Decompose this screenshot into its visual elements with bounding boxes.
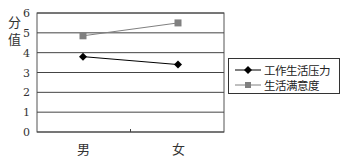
- gridlines: [37, 13, 224, 132]
- legend-item-work-life-pressure: 工作生活压力: [233, 62, 330, 77]
- data-series: [79, 19, 182, 68]
- y-axis-ticks: 0123456: [23, 7, 30, 139]
- legend-label: 生活满意度: [264, 77, 319, 93]
- x-tick-label: 男: [77, 142, 90, 157]
- legend: 工作生活压力 生活满意度: [228, 58, 340, 94]
- data-point: [175, 19, 182, 26]
- y-axis-label-line1: 分: [8, 15, 21, 30]
- y-tick-label: 2: [23, 86, 30, 99]
- y-tick-label: 3: [23, 67, 30, 80]
- legend-item-life-satisfaction: 生活满意度: [233, 77, 319, 92]
- data-point: [174, 61, 182, 69]
- legend-label: 工作生活压力: [264, 62, 330, 78]
- y-tick-label: 1: [23, 106, 30, 119]
- y-tick-label: 6: [23, 7, 30, 20]
- square-marker-icon: [233, 79, 263, 91]
- series-square: [80, 19, 182, 39]
- x-tick-label: 女: [172, 142, 185, 157]
- y-tick-label: 5: [23, 27, 30, 40]
- y-tick-label: 0: [23, 126, 30, 139]
- x-axis-ticks: 男女: [77, 142, 185, 157]
- data-point: [80, 32, 87, 39]
- y-tick-label: 4: [23, 47, 30, 60]
- series-diamond: [79, 53, 182, 69]
- y-axis-label-line2: 值: [8, 32, 21, 47]
- diamond-marker-icon: [233, 64, 263, 76]
- data-point: [79, 53, 87, 61]
